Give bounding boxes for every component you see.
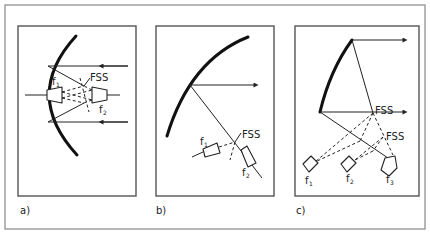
feed-cross-b	[62, 90, 92, 98]
feed2-ray-b	[84, 100, 92, 103]
feed-horn-f1-icon	[303, 156, 318, 172]
feed-horn-f3-icon	[381, 156, 397, 176]
reflector-curve	[167, 37, 248, 136]
feed1-ray	[219, 142, 235, 147]
focal-ray-top	[352, 40, 373, 113]
reflector-curve	[320, 40, 352, 112]
panel-a-label: a)	[20, 205, 30, 216]
focal-ray-bottom	[320, 112, 388, 158]
panel-c: FSS FSS f 1 f 2 f 3 c)	[295, 26, 419, 216]
feed-label-f1-sub: 1	[56, 81, 60, 88]
feed-label-f2-sub: 2	[350, 178, 354, 185]
figure-canvas: FSS f 1 f 2 a) FSS f 1 f 2 b)	[0, 0, 430, 234]
feed1-ray-a	[62, 86, 84, 92]
panel-c-frame	[295, 26, 419, 196]
panel-b: FSS f 1 f 2 b)	[156, 26, 274, 216]
fss-label: FSS	[242, 129, 260, 140]
feed-label-f2-sub: 2	[103, 109, 107, 116]
panel-a: FSS f 1 f 2 a)	[18, 26, 136, 216]
panel-b-label: b)	[156, 205, 166, 216]
feed-label-f1-sub: 1	[204, 141, 208, 148]
feed1-ray-b	[62, 98, 84, 103]
panel-a-frame	[18, 26, 136, 196]
fss-label-2: FSS	[386, 131, 404, 142]
fss-label: FSS	[90, 72, 108, 83]
feed1-waveguide	[192, 152, 203, 157]
reflected-ray-bottom	[48, 103, 84, 122]
feed2-ray-a	[84, 86, 92, 90]
feed-label-f3-sub: 3	[390, 179, 394, 186]
feed-horn-f2-icon	[241, 146, 256, 167]
fss-leader	[235, 133, 241, 142]
fss-label-1: FSS	[375, 105, 393, 116]
f1-ray-a	[315, 113, 373, 162]
feed-horn-f1-icon	[47, 87, 62, 103]
feed-label-f1-sub: 1	[309, 180, 313, 187]
feed-cross-a	[62, 92, 92, 100]
feed-horn-f2-icon	[341, 156, 356, 172]
feed-label-f2-sub: 2	[246, 172, 250, 179]
panel-c-label: c)	[296, 205, 305, 216]
f2-ray-a	[355, 137, 383, 160]
fss1-ray-b	[360, 113, 373, 141]
fss-surface	[230, 142, 235, 160]
feed-horn-f2-icon	[92, 87, 107, 103]
fss-surface	[80, 78, 89, 112]
f1-ray-b	[315, 141, 360, 162]
